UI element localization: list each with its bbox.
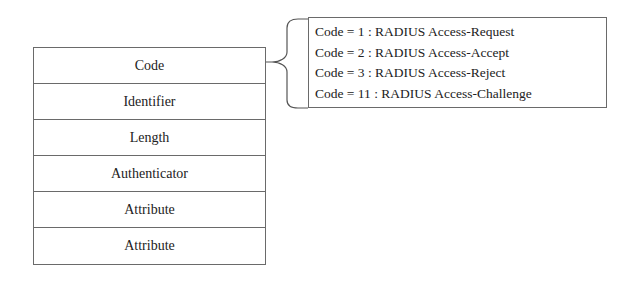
field-length: Length bbox=[34, 120, 265, 156]
field-identifier: Identifier bbox=[34, 84, 265, 120]
code-3-line: Code = 3 : RADIUS Access-Reject bbox=[315, 63, 606, 84]
radius-packet-structure: Code Identifier Length Authenticator Att… bbox=[33, 47, 266, 265]
field-code: Code bbox=[34, 48, 265, 84]
code-2-line: Code = 2 : RADIUS Access-Accept bbox=[315, 43, 606, 64]
field-authenticator: Authenticator bbox=[34, 156, 265, 192]
code-values-callout: Code = 1 : RADIUS Access-Request Code = … bbox=[308, 17, 607, 108]
field-attribute-1: Attribute bbox=[34, 192, 265, 228]
code-1-line: Code = 1 : RADIUS Access-Request bbox=[315, 22, 606, 43]
field-attribute-2: Attribute bbox=[34, 228, 265, 264]
curly-brace-connector bbox=[262, 14, 312, 114]
code-11-line: Code = 11 : RADIUS Access-Challenge bbox=[315, 84, 606, 105]
